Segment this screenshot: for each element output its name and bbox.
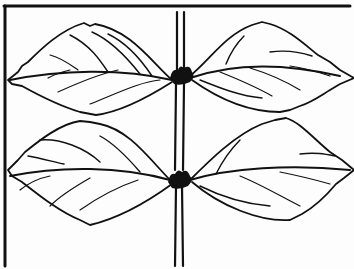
leaf-drawing (0, 0, 354, 269)
lower-node (168, 170, 192, 188)
leaf-lower-right (190, 118, 354, 220)
stem (175, 12, 184, 266)
botanical-illustration: line drawing of opposite leaves on a ste… (0, 0, 354, 269)
leaf-lower-left (8, 121, 172, 225)
leaf-upper-left (8, 23, 172, 115)
leaf-upper-right (190, 22, 354, 112)
